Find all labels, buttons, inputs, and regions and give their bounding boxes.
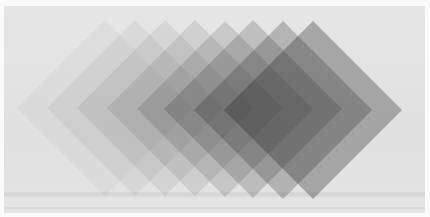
diamond-stack [0, 0, 430, 217]
bottom-edge [4, 207, 425, 209]
image-frame [0, 0, 430, 217]
